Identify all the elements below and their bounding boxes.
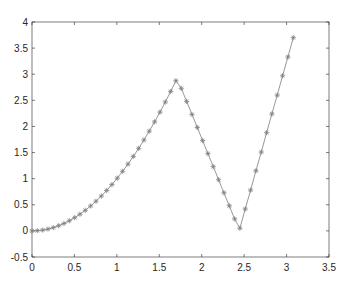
asterisk-marker (173, 78, 178, 83)
asterisk-marker (109, 182, 114, 187)
y-tick-label: 1 (22, 173, 28, 184)
y-tick-label: 0 (22, 225, 28, 236)
asterisk-marker (125, 161, 130, 166)
y-tick-label: 2 (22, 121, 28, 132)
asterisk-marker (248, 188, 253, 193)
x-tick-label: 2.5 (237, 262, 251, 273)
asterisk-marker (141, 137, 146, 142)
asterisk-marker (61, 221, 66, 226)
asterisk-marker (88, 203, 93, 208)
asterisk-marker (93, 199, 98, 204)
asterisk-marker (264, 130, 269, 135)
asterisk-marker (221, 190, 226, 195)
y-tick-label: 3 (22, 69, 28, 80)
asterisk-marker (243, 206, 248, 211)
asterisk-marker (205, 151, 210, 156)
y-tick-label: 0.5 (14, 199, 28, 210)
asterisk-marker (211, 164, 216, 169)
asterisk-marker (157, 110, 162, 115)
x-tick-label: 1 (114, 262, 120, 273)
asterisk-marker (200, 138, 205, 143)
asterisk-marker (51, 225, 56, 230)
asterisk-marker (163, 99, 168, 104)
x-tick-label: 0 (29, 262, 35, 273)
y-tick-label: 4 (22, 17, 28, 28)
asterisk-marker (253, 168, 258, 173)
asterisk-marker (269, 111, 274, 116)
y-tick-label: 1.5 (14, 147, 28, 158)
x-tick-label: 3.5 (322, 262, 336, 273)
plot-area (32, 22, 329, 257)
x-tick-label: 2 (199, 262, 205, 273)
y-tick-label: 2.5 (14, 95, 28, 106)
asterisk-marker (189, 112, 194, 117)
asterisk-marker (147, 129, 152, 134)
y-tick-label: -0.5 (11, 252, 29, 263)
asterisk-marker (280, 73, 285, 78)
x-tick-label: 1.5 (152, 262, 166, 273)
asterisk-marker (237, 226, 242, 231)
line-chart: 00.511.522.533.5 -0.500.511.522.533.54 (0, 0, 349, 285)
asterisk-marker (259, 149, 264, 154)
asterisk-marker (29, 228, 34, 233)
asterisk-marker (67, 218, 72, 223)
x-tick-label: 0.5 (67, 262, 81, 273)
asterisk-marker (227, 203, 232, 208)
y-tick-label: 3.5 (14, 43, 28, 54)
asterisk-marker (99, 193, 104, 198)
asterisk-marker (184, 99, 189, 104)
asterisk-marker (216, 177, 221, 182)
x-tick-label: 3 (284, 262, 290, 273)
